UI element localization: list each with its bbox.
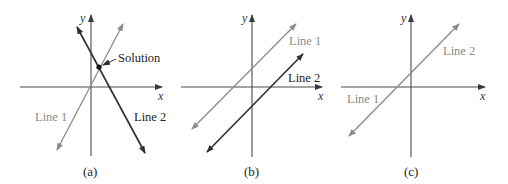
solution-pointer — [103, 59, 116, 65]
line-2-label: Line 2 — [443, 44, 475, 58]
line-1-label: Line 1 — [347, 92, 379, 106]
solution-label: Solution — [118, 51, 161, 65]
linear-systems-diagram: y x Solution Line 1 Line 2 (a) y x Line … — [0, 0, 508, 184]
x-axis-label: x — [157, 89, 164, 103]
line-2-label: Line 2 — [288, 71, 320, 85]
coincident-line — [349, 24, 459, 136]
line-1-label: Line 1 — [35, 110, 67, 124]
panel-caption: (a) — [83, 164, 97, 179]
panel-c: y x Line 1 Line 2 (c) — [341, 11, 486, 179]
panel-caption: (b) — [244, 164, 259, 179]
line-2 — [207, 54, 303, 152]
x-axis-label: x — [479, 89, 486, 103]
line-1-label: Line 1 — [289, 34, 321, 48]
y-axis-label: y — [400, 11, 407, 25]
panel-b: y x Line 1 Line 2 (b) — [181, 11, 324, 179]
x-axis-label: x — [317, 89, 324, 103]
solution-point — [96, 64, 101, 69]
y-axis-label: y — [241, 11, 248, 25]
line-2-label: Line 2 — [134, 110, 166, 124]
y-axis-label: y — [79, 11, 86, 25]
panel-a: y x Solution Line 1 Line 2 (a) — [20, 11, 166, 179]
panel-caption: (c) — [404, 164, 418, 179]
